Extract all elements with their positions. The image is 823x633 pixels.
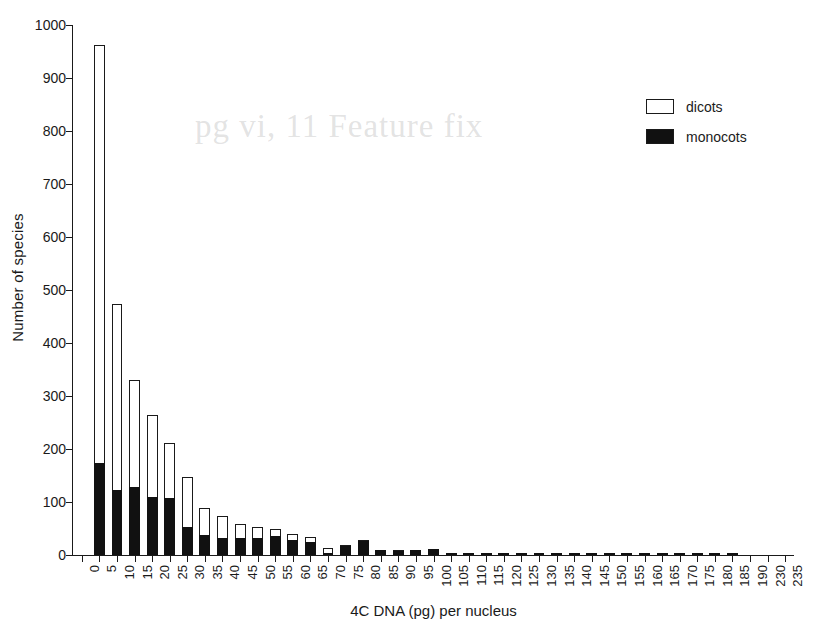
x-tick-label: 80 <box>368 565 383 579</box>
bar-segment-monocots <box>692 553 703 555</box>
x-tick-label: 40 <box>227 565 242 579</box>
x-tick-label: 160 <box>650 565 665 587</box>
bar-155 <box>621 554 632 556</box>
x-tick-label: 230 <box>773 565 788 587</box>
x-tick-label: 50 <box>263 565 278 579</box>
bar-170 <box>674 554 685 556</box>
x-axis-tick-labels: 0510152025303540455055606570758085909510… <box>73 556 794 633</box>
x-tick-label: 175 <box>702 565 717 587</box>
x-tick-label: 140 <box>579 565 594 587</box>
bar-180 <box>709 554 720 556</box>
bar-segment-monocots <box>709 553 720 555</box>
x-tick-label: 0 <box>87 565 102 572</box>
bar-segment-monocots <box>323 553 334 555</box>
x-tick-label: 20 <box>157 565 172 579</box>
x-tick-mark <box>785 556 786 562</box>
x-tick-mark <box>486 556 487 562</box>
bar-120 <box>498 554 509 556</box>
bar-135 <box>551 554 562 556</box>
x-tick-mark <box>328 556 329 562</box>
x-tick-label: 150 <box>614 565 629 587</box>
bar-segment-monocots <box>657 553 668 555</box>
bar-30 <box>182 477 193 555</box>
x-tick-mark <box>768 556 769 562</box>
bar-35 <box>199 508 210 555</box>
x-tick-label: 30 <box>192 565 207 579</box>
x-tick-mark <box>732 556 733 562</box>
bar-segment-monocots <box>305 542 316 555</box>
x-tick-mark <box>152 556 153 562</box>
bar-95 <box>410 550 421 555</box>
x-tick-mark <box>381 556 382 562</box>
x-tick-label: 170 <box>685 565 700 587</box>
bar-segment-monocots <box>94 463 105 555</box>
x-tick-label: 235 <box>790 565 805 587</box>
bar-segment-monocots <box>182 527 193 555</box>
x-tick-mark <box>117 556 118 562</box>
x-tick-mark <box>275 556 276 562</box>
x-tick-mark <box>293 556 294 562</box>
bar-segment-monocots <box>586 553 597 555</box>
bar-segment-monocots <box>551 553 562 555</box>
x-tick-mark <box>222 556 223 562</box>
y-tick-label: 500 <box>20 282 66 298</box>
bar-segment-monocots <box>463 553 474 555</box>
x-tick-mark <box>310 556 311 562</box>
bar-segment-monocots <box>516 553 527 555</box>
bar-160 <box>639 554 650 556</box>
bar-145 <box>586 553 597 555</box>
x-tick-mark <box>521 556 522 562</box>
x-axis-label: 4C DNA (pg) per nucleus <box>73 602 794 619</box>
bar-segment-monocots <box>287 540 298 555</box>
x-tick-label: 15 <box>140 565 155 579</box>
legend-label-dicots: dicots <box>686 99 723 115</box>
x-tick-mark <box>627 556 628 562</box>
x-tick-mark <box>346 556 347 562</box>
legend-label-monocots: monocots <box>686 129 747 145</box>
bar-segment-monocots <box>375 550 386 555</box>
y-tick-label: 700 <box>20 176 66 192</box>
bar-75 <box>340 545 351 555</box>
bar-45 <box>235 524 246 555</box>
bar-185 <box>727 553 738 555</box>
bar-segment-monocots <box>569 553 580 555</box>
x-tick-mark <box>82 556 83 562</box>
x-tick-label: 85 <box>386 565 401 579</box>
x-tick-mark <box>99 556 100 562</box>
x-tick-mark <box>557 556 558 562</box>
bar-segment-monocots <box>199 535 210 555</box>
x-tick-mark <box>662 556 663 562</box>
x-tick-label: 125 <box>526 565 541 587</box>
x-tick-label: 25 <box>175 565 190 579</box>
x-tick-label: 165 <box>667 565 682 587</box>
legend-item-dicots: dicots <box>646 98 816 115</box>
bar-70 <box>323 548 334 555</box>
bar-65 <box>305 537 316 555</box>
bar-segment-monocots <box>252 538 263 555</box>
legend-swatch-dicots <box>646 99 674 114</box>
x-tick-label: 60 <box>298 565 313 579</box>
x-tick-mark <box>609 556 610 562</box>
legend-swatch-monocots <box>646 129 674 144</box>
bar-150 <box>604 554 615 556</box>
bar-130 <box>534 554 545 556</box>
y-tick-label: 0 <box>20 547 66 563</box>
chart-legend: dicotsmonocots <box>646 98 816 158</box>
x-tick-mark <box>592 556 593 562</box>
bar-85 <box>375 550 386 555</box>
bar-segment-monocots <box>604 553 615 555</box>
x-tick-label: 115 <box>491 565 506 586</box>
bar-25 <box>164 443 175 555</box>
bar-segment-monocots <box>217 538 228 555</box>
bar-segment-monocots <box>358 541 369 555</box>
legend-item-monocots: monocots <box>646 128 816 145</box>
bar-segment-monocots <box>270 536 281 555</box>
bar-90 <box>393 550 404 555</box>
x-tick-label: 95 <box>421 565 436 579</box>
x-tick-label: 135 <box>562 565 577 587</box>
bar-segment-monocots <box>393 551 404 555</box>
x-tick-label: 120 <box>509 565 524 587</box>
bar-segment-monocots <box>428 549 439 555</box>
bar-segment-monocots <box>129 487 140 555</box>
x-tick-label: 65 <box>315 565 330 579</box>
